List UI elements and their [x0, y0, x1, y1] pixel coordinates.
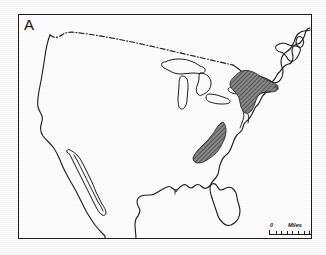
shaded-region-northeast	[230, 70, 278, 113]
gulf-coast-outline	[135, 184, 240, 239]
map-graphic	[19, 15, 312, 239]
gulf-of-california-inner	[74, 155, 103, 211]
lake-superior-outline	[162, 59, 206, 74]
lake-erie-outline	[206, 94, 230, 104]
lake-huron-outline	[196, 73, 211, 95]
scale-unit-label: Miles	[288, 223, 302, 229]
scale-min-label: 0	[270, 223, 273, 229]
lake-michigan-outline	[178, 76, 188, 109]
map-frame: 0 Miles 500	[18, 14, 312, 239]
maritime-tip-outline	[296, 37, 304, 48]
panel-label: A	[24, 17, 35, 32]
scale-bar: 0 Miles 500	[269, 223, 312, 235]
us-canada-border-dashdot	[50, 32, 233, 65]
shaded-region-southern-appalachian	[193, 122, 226, 163]
scale-bar-labels: 0 Miles 500	[269, 223, 312, 229]
coastline-outline	[38, 35, 105, 239]
new-england-maine-outline	[269, 28, 310, 86]
scale-bar-graphic	[269, 230, 312, 235]
figure-panel: 0 Miles 500 A	[0, 0, 326, 255]
